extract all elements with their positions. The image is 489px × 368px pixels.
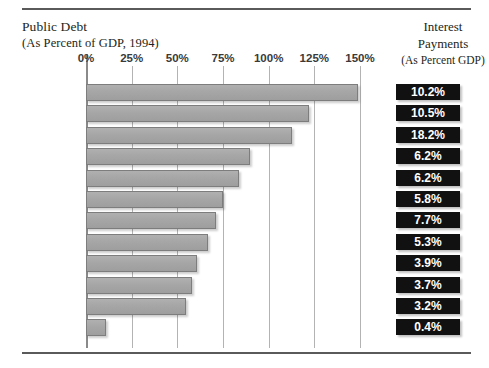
page-subtitle: (As Percent of GDP, 1994) xyxy=(22,35,262,52)
interest-payment-badge: 6.2% xyxy=(396,170,460,186)
public-debt-chart: Public Debt (As Percent of GDP, 1994) In… xyxy=(0,0,489,368)
x-tick-label: 0% xyxy=(78,52,95,64)
gridline xyxy=(360,66,361,348)
debt-bar xyxy=(86,84,358,101)
bottom-rule xyxy=(22,352,471,354)
interest-payment-badge: 7.7% xyxy=(396,212,460,228)
chart-row: Belgium10.2% xyxy=(86,84,360,101)
chart-row: Britain3.2% xyxy=(86,298,360,315)
interest-payment-badge: 18.2% xyxy=(396,127,460,143)
interest-payment-badge: 0.4% xyxy=(396,319,460,335)
interest-payment-badge: 10.2% xyxy=(396,84,460,100)
chart-title-block: Public Debt (As Percent of GDP, 1994) xyxy=(22,18,262,52)
x-tick-label: 150% xyxy=(345,52,374,64)
debt-bar xyxy=(86,234,208,251)
chart-row: Portugal5.8% xyxy=(86,191,360,208)
top-rule xyxy=(22,8,471,10)
debt-bar xyxy=(86,191,223,208)
chart-row: Greece18.2% xyxy=(86,127,360,144)
interest-payment-badge: 10.5% xyxy=(396,105,460,121)
debt-bar xyxy=(86,319,106,336)
debt-bar xyxy=(86,105,309,122)
chart-row: Germany3.7% xyxy=(86,277,360,294)
interest-header-subtitle: (As Percent GDP) xyxy=(396,52,489,69)
debt-bar xyxy=(86,277,192,294)
chart-row: Italy10.5% xyxy=(86,105,360,122)
x-tick-label: 75% xyxy=(211,52,234,64)
x-tick-label: 25% xyxy=(120,52,143,64)
interest-payment-badge: 3.9% xyxy=(396,255,460,271)
chart-row: Holland6.2% xyxy=(86,170,360,187)
chart-row: Ireland6.2% xyxy=(86,148,360,165)
chart-row: France3.9% xyxy=(86,255,360,272)
interest-payment-badge: 3.2% xyxy=(396,298,460,314)
interest-header-line2: Payments xyxy=(396,35,489,52)
debt-bar xyxy=(86,255,197,272)
plot-area: Belgium10.2%Italy10.5%Greece18.2%Ireland… xyxy=(86,84,360,348)
x-tick-label: 125% xyxy=(300,52,329,64)
debt-bar xyxy=(86,148,250,165)
x-tick-label: 50% xyxy=(166,52,189,64)
chart-row: Denmark7.7% xyxy=(86,212,360,229)
interest-payment-badge: 6.2% xyxy=(396,148,460,164)
debt-bar xyxy=(86,298,186,315)
interest-column-header: Interest Payments (As Percent GDP) xyxy=(396,18,489,69)
interest-payment-badge: 3.7% xyxy=(396,277,460,293)
interest-header-line1: Interest xyxy=(396,18,489,35)
debt-bar xyxy=(86,170,239,187)
page-title: Public Debt xyxy=(22,18,262,35)
chart-row: Luxembourg0.4% xyxy=(86,319,360,336)
debt-bar xyxy=(86,127,292,144)
debt-bar xyxy=(86,212,216,229)
interest-payment-badge: 5.3% xyxy=(396,234,460,250)
chart-row: Spain5.3% xyxy=(86,234,360,251)
interest-payment-badge: 5.8% xyxy=(396,191,460,207)
x-tick-label: 100% xyxy=(254,52,283,64)
